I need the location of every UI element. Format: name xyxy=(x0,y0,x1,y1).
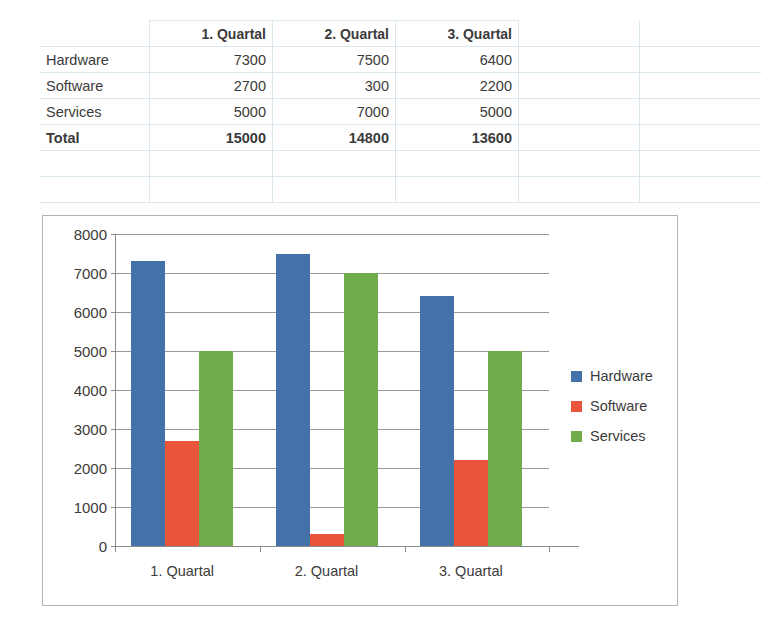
cell-total-q1[interactable]: 15000 xyxy=(150,125,273,151)
table-header-row: 1. Quartal 2. Quartal 3. Quartal xyxy=(40,21,761,47)
cell-services-q3[interactable]: 5000 xyxy=(396,99,519,125)
cell-software-q1[interactable]: 2700 xyxy=(150,73,273,99)
cell-blank[interactable] xyxy=(273,151,396,177)
header-cell-q3[interactable]: 3. Quartal xyxy=(396,21,519,47)
table-row: Software 2700 300 2200 xyxy=(40,73,761,99)
cell-blank[interactable] xyxy=(640,99,761,125)
cell-blank[interactable] xyxy=(519,99,640,125)
chart-legend: HardwareSoftwareServices xyxy=(571,361,671,451)
y-axis-tick-mark xyxy=(111,351,116,352)
row-label-services[interactable]: Services xyxy=(40,99,150,125)
row-label-software[interactable]: Software xyxy=(40,73,150,99)
y-axis-tick-mark xyxy=(111,312,116,313)
legend-item-software[interactable]: Software xyxy=(571,391,671,421)
y-axis-tick-mark xyxy=(111,390,116,391)
gridline xyxy=(116,429,549,430)
bar-chart[interactable]: 010002000300040005000600070008000 1. Qua… xyxy=(42,215,678,606)
chart-plot-area: 010002000300040005000600070008000 1. Qua… xyxy=(116,234,549,546)
header-cell-blank-1[interactable] xyxy=(519,21,640,47)
bar-software-1[interactable] xyxy=(165,441,199,546)
cell-blank[interactable] xyxy=(519,151,640,177)
y-axis-tick-label: 6000 xyxy=(74,304,107,321)
table-row-empty xyxy=(40,177,761,203)
bar-services-3[interactable] xyxy=(488,351,522,546)
x-axis-line xyxy=(115,546,579,547)
cell-services-q1[interactable]: 5000 xyxy=(150,99,273,125)
x-axis-tick-label: 1. Quartal xyxy=(150,563,214,579)
header-cell-q1[interactable]: 1. Quartal xyxy=(150,21,273,47)
x-axis-tick-mark xyxy=(260,546,261,552)
legend-swatch-icon xyxy=(571,371,582,382)
cell-blank[interactable] xyxy=(40,151,150,177)
table-row: Hardware 7300 7500 6400 xyxy=(40,47,761,73)
gridline xyxy=(116,273,549,274)
cell-hardware-q2[interactable]: 7500 xyxy=(273,47,396,73)
y-axis-tick-mark xyxy=(111,507,116,508)
y-axis-tick-label: 8000 xyxy=(74,226,107,243)
legend-item-services[interactable]: Services xyxy=(571,421,671,451)
cell-blank[interactable] xyxy=(640,47,761,73)
cell-blank[interactable] xyxy=(150,151,273,177)
y-axis-tick-label: 1000 xyxy=(74,499,107,516)
gridline xyxy=(116,312,549,313)
cell-total-q2[interactable]: 14800 xyxy=(273,125,396,151)
y-axis-tick-label: 2000 xyxy=(74,460,107,477)
x-axis-tick-mark xyxy=(405,546,406,552)
cell-blank[interactable] xyxy=(40,177,150,203)
cell-blank[interactable] xyxy=(273,177,396,203)
gridline xyxy=(116,234,549,235)
cell-total-q3[interactable]: 13600 xyxy=(396,125,519,151)
table-row-empty xyxy=(40,151,761,177)
bar-software-3[interactable] xyxy=(454,460,488,546)
gridline xyxy=(116,390,549,391)
spreadsheet-table[interactable]: 1. Quartal 2. Quartal 3. Quartal Hardwar… xyxy=(40,20,761,203)
y-axis-tick-label: 7000 xyxy=(74,265,107,282)
table-row: Services 5000 7000 5000 xyxy=(40,99,761,125)
row-label-total[interactable]: Total xyxy=(40,125,150,151)
cell-blank[interactable] xyxy=(150,177,273,203)
cell-blank[interactable] xyxy=(519,177,640,203)
x-axis-tick-mark xyxy=(115,546,116,552)
legend-item-hardware[interactable]: Hardware xyxy=(571,361,671,391)
bar-hardware-1[interactable] xyxy=(131,261,165,546)
cell-hardware-q1[interactable]: 7300 xyxy=(150,47,273,73)
cell-blank[interactable] xyxy=(519,125,640,151)
x-axis-tick-label: 3. Quartal xyxy=(439,563,503,579)
table-row-total: Total 15000 14800 13600 xyxy=(40,125,761,151)
header-cell-q2[interactable]: 2. Quartal xyxy=(273,21,396,47)
cell-blank[interactable] xyxy=(519,73,640,99)
cell-blank[interactable] xyxy=(640,125,761,151)
y-axis-tick-mark xyxy=(111,273,116,274)
cell-blank[interactable] xyxy=(396,151,519,177)
header-cell-corner[interactable] xyxy=(40,21,150,47)
cell-blank[interactable] xyxy=(396,177,519,203)
legend-label: Hardware xyxy=(590,368,653,384)
bar-hardware-2[interactable] xyxy=(276,254,310,547)
y-axis-tick-mark xyxy=(111,429,116,430)
header-cell-blank-2[interactable] xyxy=(640,21,761,47)
bar-software-2[interactable] xyxy=(310,534,344,546)
y-axis-tick-label: 4000 xyxy=(74,382,107,399)
row-label-hardware[interactable]: Hardware xyxy=(40,47,150,73)
y-axis-tick-mark xyxy=(111,234,116,235)
legend-label: Software xyxy=(590,398,647,414)
legend-label: Services xyxy=(590,428,646,444)
cell-services-q2[interactable]: 7000 xyxy=(273,99,396,125)
cell-blank[interactable] xyxy=(519,47,640,73)
cell-software-q2[interactable]: 300 xyxy=(273,73,396,99)
cell-blank[interactable] xyxy=(640,73,761,99)
y-axis-tick-mark xyxy=(111,468,116,469)
x-axis-tick-label: 2. Quartal xyxy=(295,563,359,579)
legend-swatch-icon xyxy=(571,431,582,442)
cell-hardware-q3[interactable]: 6400 xyxy=(396,47,519,73)
cell-blank[interactable] xyxy=(640,151,761,177)
bar-services-1[interactable] xyxy=(199,351,233,546)
table-body: Hardware 7300 7500 6400 Software 2700 30… xyxy=(40,47,761,203)
x-axis-tick-mark xyxy=(549,546,550,552)
cell-blank[interactable] xyxy=(640,177,761,203)
bar-hardware-3[interactable] xyxy=(420,296,454,546)
gridline xyxy=(116,351,549,352)
legend-swatch-icon xyxy=(571,401,582,412)
cell-software-q3[interactable]: 2200 xyxy=(396,73,519,99)
bar-services-2[interactable] xyxy=(344,273,378,546)
